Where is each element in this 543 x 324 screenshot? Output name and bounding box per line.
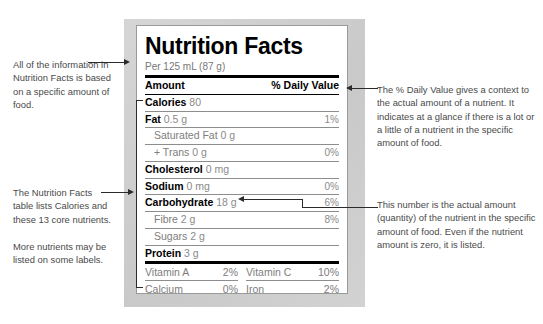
nutrient-amount: 0 g bbox=[218, 129, 236, 141]
bracket-nutrients-bottom-tick bbox=[136, 287, 143, 288]
leader-serving-arrow bbox=[124, 59, 130, 65]
column-header-amount: Amount bbox=[145, 79, 185, 91]
nutrient-amount: 18 g bbox=[213, 196, 236, 208]
vitamin-cell: Vitamin A2% bbox=[145, 264, 238, 281]
vitamin-name: Calcium bbox=[145, 283, 183, 295]
vitamin-name: Vitamin C bbox=[246, 266, 291, 278]
nutrient-name: Sodium 0 mg bbox=[145, 181, 210, 193]
table-header-row: Amount % Daily Value bbox=[145, 78, 339, 94]
nutrient-name: Fat 0.5 g bbox=[145, 114, 187, 126]
leader-daily-value-arrow bbox=[346, 85, 352, 91]
vitamin-name: Vitamin A bbox=[145, 266, 189, 278]
annotation-amount: This number is the actual amount (quanti… bbox=[377, 198, 539, 251]
nutrient-amount: 0 g bbox=[189, 146, 207, 158]
nutrient-daily-value: 8% bbox=[325, 214, 339, 225]
nutrient-name: Saturated Fat 0 g bbox=[154, 130, 235, 142]
bracket-nutrients-vertical bbox=[136, 100, 137, 287]
nutrient-amount: 80 bbox=[186, 96, 201, 108]
vitamin-daily-value: 0% bbox=[223, 283, 238, 295]
table-row: Fat 0.5 g1% bbox=[145, 112, 339, 128]
table-row: + Trans 0 g0% bbox=[145, 145, 339, 161]
table-row: Cholesterol 0 mg bbox=[145, 162, 339, 178]
leader-serving-line bbox=[88, 62, 124, 63]
leader-amount-elbow bbox=[302, 199, 303, 208]
column-header-daily-value: % Daily Value bbox=[271, 79, 339, 91]
nutrient-daily-value: 0% bbox=[325, 147, 339, 158]
nutrient-amount: 3 g bbox=[181, 247, 199, 259]
nutrient-name: Fibre 2 g bbox=[154, 214, 195, 226]
leader-daily-value-line bbox=[352, 88, 378, 89]
nutrition-facts-label: Nutrition Facts Per 125 mL (87 g) Amount… bbox=[136, 25, 348, 294]
vitamin-cell: Iron2% bbox=[246, 281, 339, 297]
vitamin-daily-value: 2% bbox=[324, 283, 339, 295]
annotation-more: More nutrients may be listed on some lab… bbox=[13, 240, 113, 267]
nutrient-rows: Calories 80Fat 0.5 g1%Saturated Fat 0 g+… bbox=[145, 95, 339, 262]
leader-amount-inner-line bbox=[244, 199, 302, 200]
nutrient-name: Protein 3 g bbox=[145, 248, 199, 260]
annotation-daily-value: The % Daily Value gives a context to the… bbox=[377, 83, 539, 150]
vitamin-daily-value: 10% bbox=[318, 266, 339, 278]
leader-amount-arrow bbox=[238, 196, 244, 202]
vitamin-name: Iron bbox=[246, 283, 264, 295]
bracket-nutrients-top-tick bbox=[136, 100, 143, 101]
nutrient-amount: 2 g bbox=[178, 213, 196, 225]
table-row: Protein 3 g bbox=[145, 246, 339, 262]
table-row: Saturated Fat 0 g bbox=[145, 128, 339, 144]
serving-size: Per 125 mL (87 g) bbox=[145, 61, 339, 72]
nutrient-name: + Trans 0 g bbox=[154, 147, 207, 159]
nutrient-amount: 0 mg bbox=[203, 163, 229, 175]
vitamin-cell: Vitamin C10% bbox=[246, 264, 339, 281]
table-row: Sugars 2 g bbox=[145, 229, 339, 245]
nutrient-name: Sugars 2 g bbox=[154, 231, 205, 243]
leader-nutrients-line bbox=[101, 192, 129, 193]
vitamins-grid: Vitamin A2%Vitamin C10%Calcium0%Iron2% bbox=[145, 264, 339, 297]
vitamin-daily-value: 2% bbox=[223, 266, 238, 278]
nutrient-name: Carbohydrate 18 g bbox=[145, 197, 237, 209]
leader-nutrients-arrow bbox=[128, 189, 134, 195]
annotation-serving: All of the information in Nutrition Fact… bbox=[13, 58, 111, 111]
vitamin-cell: Calcium0% bbox=[145, 281, 238, 297]
nutrient-name: Cholesterol 0 mg bbox=[145, 164, 229, 176]
nutrient-name: Calories 80 bbox=[145, 97, 201, 109]
nutrient-daily-value: 1% bbox=[325, 114, 339, 125]
annotation-nutrients: The Nutrition Facts table lists Calories… bbox=[13, 186, 113, 226]
leader-amount-outer-line bbox=[302, 207, 378, 208]
nutrient-daily-value: 0% bbox=[325, 181, 339, 192]
nutrient-amount: 0 mg bbox=[184, 180, 210, 192]
table-row: Sodium 0 mg0% bbox=[145, 179, 339, 195]
nutrient-amount: 0.5 g bbox=[161, 113, 187, 125]
page-title: Nutrition Facts bbox=[145, 34, 339, 58]
table-row: Fibre 2 g8% bbox=[145, 212, 339, 228]
nutrient-amount: 2 g bbox=[187, 230, 205, 242]
nutrition-label-diagram: Nutrition Facts Per 125 mL (87 g) Amount… bbox=[0, 0, 543, 324]
table-row: Calories 80 bbox=[145, 95, 339, 111]
